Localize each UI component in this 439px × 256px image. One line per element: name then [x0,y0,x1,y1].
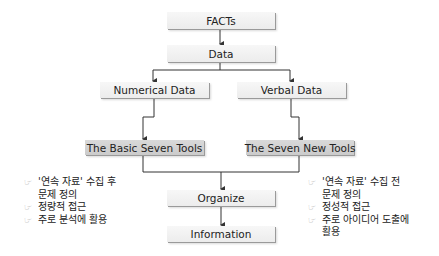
node-label: Organize [197,192,244,204]
node-seven-new-tools: The Seven New Tools [246,140,354,155]
node-label: Data [208,48,233,60]
node-information: Information [167,226,275,242]
note-text: 정성적 접근 [322,201,370,214]
node-facts: FACTs [167,12,275,29]
node-label: The Basic Seven Tools [87,142,203,154]
pointing-hand-icon: ☞ [24,176,38,201]
note-item: ☞ '연속 자료' 수집 후 문제 정의 [24,176,116,201]
pointing-hand-icon: ☞ [308,176,322,201]
pointing-hand-icon: ☞ [24,201,38,214]
node-verbal-data: Verbal Data [237,82,346,98]
node-label: Information [191,228,252,240]
pointing-hand-icon: ☞ [308,214,322,239]
pointing-hand-icon: ☞ [308,201,322,214]
node-label: Verbal Data [261,84,323,96]
note-text: 주로 분석에 활용 [38,214,107,227]
arrow-numerical-basic [143,99,154,139]
node-label: Numerical Data [114,84,196,96]
note-item: ☞ '연속 자료' 수집 전 문제 정의 [308,176,409,201]
note-item: ☞ 주로 분석에 활용 [24,214,116,227]
note-item: ☞ 정성적 접근 [308,201,409,214]
pointing-hand-icon: ☞ [24,214,38,227]
node-label: The Seven New Tools [245,142,356,154]
note-text: '연속 자료' 수집 전 문제 정의 [322,176,400,201]
right-notes: ☞ '연속 자료' 수집 전 문제 정의 ☞ 정성적 접근 ☞ 주로 아이디어 … [308,176,409,239]
note-text: 주로 아이디어 도출에 활용 [322,214,409,239]
note-item: ☞ 주로 아이디어 도출에 활용 [308,214,409,239]
node-basic-seven-tools: The Basic Seven Tools [85,140,204,155]
note-text: '연속 자료' 수집 후 문제 정의 [38,176,116,201]
note-text: 정량적 접근 [38,201,86,214]
note-item: ☞ 정량적 접근 [24,201,116,214]
node-organize: Organize [167,190,275,206]
left-notes: ☞ '연속 자료' 수집 후 문제 정의 ☞ 정량적 접근 ☞ 주로 분석에 활… [24,176,116,226]
node-numerical-data: Numerical Data [100,82,209,98]
arrow-verbal-sevennew [291,99,299,139]
node-label: FACTs [206,15,236,27]
node-data: Data [167,45,275,62]
